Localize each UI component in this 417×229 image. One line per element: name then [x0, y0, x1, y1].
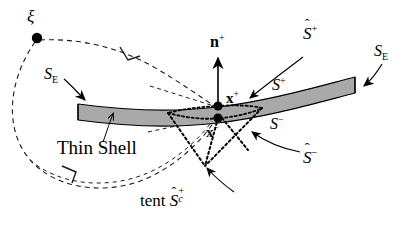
s-e-left-leader [64, 79, 85, 100]
tent-label-leader [207, 168, 234, 192]
diagram-svg [0, 0, 417, 229]
label-n-plus-letter: n [210, 33, 219, 50]
label-s-plus-sup: + [280, 75, 286, 86]
label-tent-s: ˆS [170, 192, 179, 209]
label-s-hat-plus: ˆS+ [303, 24, 317, 42]
label-s-e-right: SE [374, 43, 388, 62]
label-x-plus-letter: x [226, 90, 234, 106]
label-x-minus: x− [206, 124, 219, 140]
label-s-e-left-sub: E [52, 74, 58, 85]
label-s-minus: S− [270, 115, 284, 132]
xi-dot [32, 33, 42, 43]
dashed-upper-trajectory [40, 40, 216, 107]
label-tent-word: tent [140, 191, 166, 210]
label-n-plus: n+ [210, 33, 225, 50]
label-x-minus-letter: x [206, 124, 214, 140]
label-x-plus-sup: + [234, 89, 239, 99]
figure-canvas: ξ SE SE n+ x+ x− S+ S− ˆS+ ˆS− Thin Shel… [0, 0, 417, 229]
label-s-plus: S+ [272, 76, 286, 93]
label-s-e-left: SE [44, 66, 58, 85]
x-plus-dot [213, 101, 222, 110]
x-minus-dot [213, 113, 222, 122]
label-s-minus-sup: − [278, 114, 284, 125]
s-hat-minus-leader [252, 132, 300, 152]
label-x-plus: x+ [226, 90, 239, 106]
label-n-plus-sup: + [219, 32, 225, 43]
label-s-hat-plus-letter: ˆS [303, 25, 312, 42]
label-s-hat-minus-sup: − [312, 147, 318, 158]
label-s-e-left-letter: S [44, 65, 52, 82]
label-xi: ξ [27, 8, 34, 25]
label-tent: tent ˆS+c [140, 189, 187, 209]
label-thin-shell: Thin Shell [57, 138, 137, 157]
label-s-minus-letter: S [270, 115, 278, 132]
label-x-minus-sup: − [214, 123, 219, 133]
label-tent-supsub: +c [178, 189, 187, 206]
s-e-right-leader [364, 64, 382, 86]
label-s-hat-minus-letter: ˆS [303, 149, 312, 166]
hat-accent-icon: ˆ [172, 185, 177, 199]
hat-accent-icon: ˆ [305, 17, 310, 31]
hat-accent-icon: ˆ [305, 141, 310, 155]
label-s-plus-letter: S [272, 76, 280, 93]
dashed-tangent-upper [150, 86, 214, 106]
label-s-e-right-letter: S [374, 42, 382, 59]
label-s-hat-minus: ˆS− [303, 148, 317, 166]
label-s-e-right-sub: E [382, 51, 388, 62]
label-s-hat-plus-sup: + [312, 23, 318, 34]
